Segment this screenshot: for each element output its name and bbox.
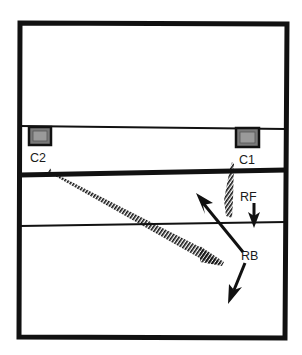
marker-c2-label: C2 <box>30 151 46 165</box>
arrow-down-icon <box>248 203 260 228</box>
diagram-canvas: C2 C1 RF RB <box>0 0 302 355</box>
hatched-path-c2 <box>48 168 224 266</box>
arrow-down-left-icon <box>228 263 245 304</box>
court-outline <box>19 23 287 338</box>
marker-c1: C1 <box>236 128 259 167</box>
center-thick-line <box>20 170 286 175</box>
marker-c2: C2 <box>29 127 51 165</box>
marker-c1-label: C1 <box>239 153 255 167</box>
player-rf-label: RF <box>240 190 257 204</box>
